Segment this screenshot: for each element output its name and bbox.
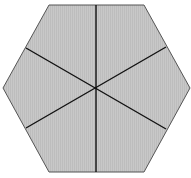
hexagon-diagram <box>0 0 191 178</box>
